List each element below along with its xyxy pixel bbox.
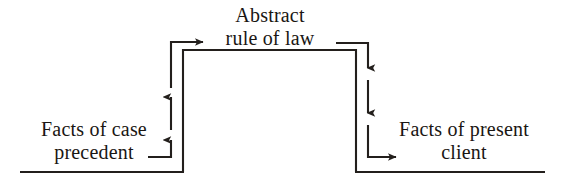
node-facts-client-line1: Facts of present bbox=[399, 118, 529, 140]
node-facts-precedent-line2: precedent bbox=[14, 141, 174, 164]
node-abstract-rule-line2: rule of law bbox=[190, 27, 350, 50]
node-facts-client-line2: client bbox=[372, 141, 556, 164]
node-abstract-rule-of-law: Abstract rule of law bbox=[190, 4, 350, 50]
node-abstract-rule-line1: Abstract bbox=[235, 4, 304, 26]
node-facts-of-case-precedent: Facts of case precedent bbox=[14, 118, 174, 164]
analogical-reasoning-diagram: Abstract rule of law Facts of case prece… bbox=[0, 0, 566, 183]
outer-bracket-path bbox=[183, 50, 356, 172]
node-facts-precedent-line1: Facts of case bbox=[41, 118, 147, 140]
node-facts-of-present-client: Facts of present client bbox=[372, 118, 556, 164]
